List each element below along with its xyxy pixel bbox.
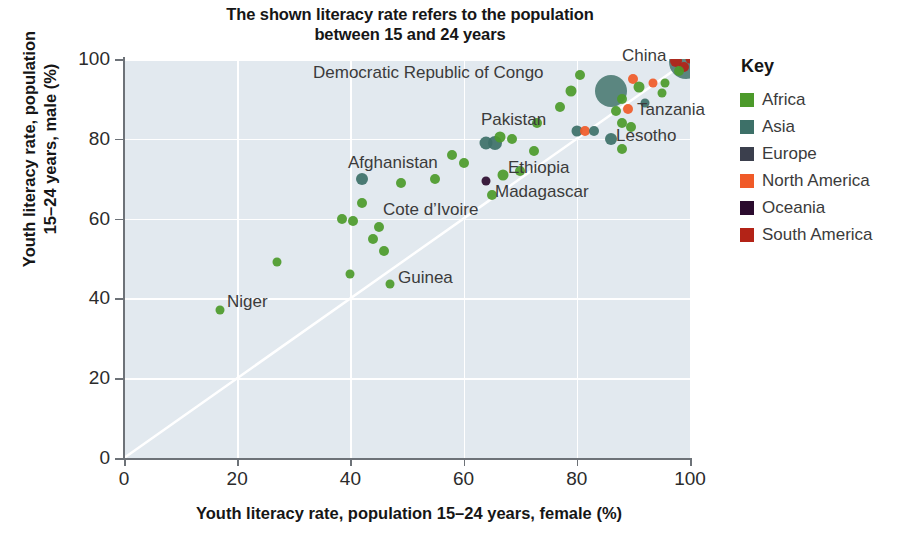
point-label: Guinea [398, 268, 453, 288]
x-tick-label: 100 [660, 468, 720, 490]
data-point [386, 280, 395, 289]
data-point [657, 88, 666, 97]
plot-inner [124, 59, 690, 458]
data-point [555, 102, 565, 112]
legend-item[interactable]: North America [740, 167, 873, 194]
y-tick-labels: 020406080100 [60, 0, 110, 534]
data-point [348, 216, 358, 226]
legend-item[interactable]: Asia [740, 113, 873, 140]
legend-swatch-icon [740, 120, 754, 134]
data-point [529, 146, 539, 156]
x-tick-label: 20 [207, 468, 267, 490]
gridline-horizontal [124, 59, 690, 61]
data-point [430, 174, 440, 184]
x-tick-mark [237, 458, 239, 466]
y-tick-label: 40 [64, 287, 110, 309]
y-axis-title-line2: 15–24 years, male (%) [40, 0, 61, 339]
data-point [605, 133, 617, 145]
data-point [660, 78, 669, 87]
y-tick-label: 100 [64, 48, 110, 70]
data-point [368, 234, 378, 244]
y-tick-mark [115, 378, 123, 380]
legend-label: North America [762, 171, 870, 191]
legend-item[interactable]: Europe [740, 140, 873, 167]
point-label: Tanzania [637, 100, 705, 120]
point-label: Ethiopia [508, 158, 569, 178]
x-tick-label: 40 [320, 468, 380, 490]
legend-label: Europe [762, 144, 817, 164]
legend-swatch-icon [740, 228, 754, 242]
data-point [611, 106, 621, 116]
chart-title-line2: between 15 and 24 years [120, 24, 700, 44]
data-point [379, 246, 389, 256]
legend-label: Africa [762, 90, 805, 110]
y-axis-title-line1: Youth literacy rate, population [20, 31, 38, 267]
y-tick-mark [115, 219, 123, 221]
point-label: Democratic Republic of Congo [313, 63, 544, 83]
legend-item[interactable]: South America [740, 221, 873, 248]
data-point [272, 258, 281, 267]
x-tick-mark [124, 458, 126, 466]
legend-swatch-icon [740, 147, 754, 161]
data-point [374, 222, 384, 232]
y-tick-label: 0 [64, 447, 110, 469]
gridline-vertical [237, 59, 239, 458]
point-label: Madagascar [495, 182, 589, 202]
chart-title-line1: The shown literacy rate refers to the po… [226, 5, 593, 23]
point-label: Cote d’Ivoire [383, 200, 478, 220]
y-tick-mark [115, 458, 123, 460]
y-tick-label: 80 [64, 128, 110, 150]
legend-label: South America [762, 225, 873, 245]
gridline-horizontal [124, 298, 690, 300]
y-tick-mark [115, 59, 123, 61]
x-axis-line [123, 458, 692, 460]
point-label: Pakistan [481, 110, 546, 130]
gridline-vertical [350, 59, 352, 458]
legend-item[interactable]: Oceania [740, 194, 873, 221]
point-label: China [622, 46, 666, 66]
legend-label: Asia [762, 117, 795, 137]
identity-reference-line [124, 59, 690, 458]
chart-figure: The shown literacy rate refers to the po… [0, 0, 902, 534]
data-point [356, 173, 368, 185]
chart-title: The shown literacy rate refers to the po… [120, 4, 700, 44]
data-point [674, 66, 684, 76]
legend-swatch-icon [740, 174, 754, 188]
gridline-vertical [577, 59, 579, 458]
x-axis-title: Youth literacy rate, population 15–24 ye… [104, 504, 714, 523]
data-point [357, 198, 367, 208]
data-point [649, 78, 658, 87]
legend-item[interactable]: Africa [740, 86, 873, 113]
data-point [575, 70, 585, 80]
y-axis-line [123, 57, 125, 460]
legend: Key AfricaAsiaEuropeNorth AmericaOceania… [740, 56, 873, 248]
data-point [495, 131, 506, 142]
point-label: Afghanistan [348, 153, 438, 173]
data-point [337, 214, 347, 224]
y-tick-label: 20 [64, 367, 110, 389]
data-point [507, 134, 517, 144]
point-label: Niger [227, 292, 268, 312]
x-tick-label: 60 [434, 468, 494, 490]
data-point [459, 158, 469, 168]
data-point [482, 176, 491, 185]
legend-title: Key [741, 56, 873, 77]
data-point [589, 126, 599, 136]
y-tick-label: 60 [64, 208, 110, 230]
x-tick-label: 80 [547, 468, 607, 490]
gridline-vertical [464, 59, 466, 458]
y-axis-title: Youth literacy rate, population 15–24 ye… [19, 0, 61, 339]
y-tick-mark [115, 298, 123, 300]
legend-swatch-icon [740, 201, 754, 215]
data-point [566, 85, 577, 96]
x-tick-label: 0 [94, 468, 154, 490]
data-point [346, 270, 355, 279]
legend-swatch-icon [740, 93, 754, 107]
data-point [623, 104, 633, 114]
point-label: Lesotho [616, 126, 677, 146]
data-point [617, 94, 627, 104]
plot-area [124, 59, 690, 458]
data-point [396, 178, 406, 188]
x-tick-mark [464, 458, 466, 466]
legend-items: AfricaAsiaEuropeNorth AmericaOceaniaSout… [740, 86, 873, 248]
